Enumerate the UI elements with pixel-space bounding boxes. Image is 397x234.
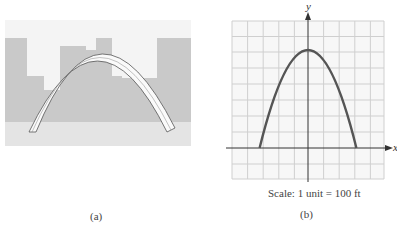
y-axis-label: y	[305, 0, 311, 12]
arch-illustration	[5, 20, 191, 146]
arch-skyline-image	[5, 20, 191, 146]
parabola-graph: x y	[226, 0, 397, 190]
x-axis-label: x	[392, 141, 397, 153]
panel-a-label: (a)	[90, 210, 102, 222]
scale-note: Scale: 1 unit = 100 ft	[268, 187, 361, 199]
panel-b-label: (b)	[300, 208, 313, 220]
x-axis-arrow-icon	[385, 145, 393, 151]
coordinate-grid: x y	[226, 0, 397, 190]
y-axis-arrow-icon	[305, 12, 311, 20]
